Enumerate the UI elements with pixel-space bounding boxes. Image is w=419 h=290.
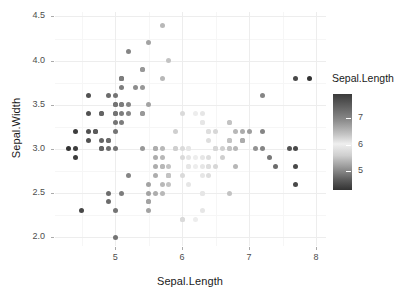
data-point: [140, 67, 145, 72]
legend-tick-mark: [346, 145, 351, 146]
data-point: [73, 155, 78, 160]
data-point: [173, 146, 178, 151]
y-axis-tick-mark: [51, 237, 54, 238]
data-point: [119, 120, 124, 125]
data-point: [206, 173, 211, 178]
x-axis-tick-mark: [182, 247, 183, 250]
data-point: [240, 138, 245, 143]
data-point: [113, 102, 118, 107]
data-point: [180, 217, 185, 222]
x-axis-title: Sepal.Length: [55, 275, 325, 287]
gridline-major-vertical: [316, 12, 317, 246]
y-axis-tick-label: 3.5: [19, 99, 45, 109]
data-point: [200, 155, 205, 160]
data-point: [213, 146, 218, 151]
data-point: [113, 129, 118, 134]
data-point: [146, 191, 151, 196]
data-point: [160, 191, 165, 196]
data-point: [273, 164, 278, 169]
data-point: [99, 146, 104, 151]
data-point: [180, 173, 185, 178]
legend-tick-label: 6: [358, 139, 363, 149]
data-point: [200, 164, 205, 169]
data-point: [126, 173, 131, 178]
data-point: [247, 129, 252, 134]
data-point: [113, 235, 118, 240]
gridline-minor-vertical: [283, 12, 284, 246]
data-point: [166, 182, 171, 187]
data-point: [119, 111, 124, 116]
data-point: [113, 120, 118, 125]
data-point: [166, 173, 171, 178]
data-point: [140, 85, 145, 90]
gridline-minor-horizontal: [55, 127, 326, 128]
data-point: [99, 138, 104, 143]
data-point: [200, 191, 205, 196]
data-point: [66, 146, 71, 151]
data-point: [206, 138, 211, 143]
y-axis-tick-label: 3.0: [19, 143, 45, 153]
data-point: [227, 120, 232, 125]
gridline-major-vertical: [182, 12, 183, 246]
data-point: [206, 129, 211, 134]
data-point: [146, 199, 151, 204]
legend-title: Sepal.Length: [332, 72, 394, 84]
data-point: [113, 146, 118, 151]
data-point: [233, 146, 238, 151]
legend-tick-label: 7: [358, 112, 363, 122]
data-point: [140, 146, 145, 151]
data-point: [160, 182, 165, 187]
y-axis-tick-label: 4.5: [19, 10, 45, 20]
data-point: [119, 76, 124, 81]
legend-colorbar: [333, 94, 352, 190]
data-point: [193, 155, 198, 160]
data-point: [220, 146, 225, 151]
y-axis-tick-label: 4.0: [19, 55, 45, 65]
gridline-major-horizontal: [55, 16, 326, 17]
data-point: [206, 155, 211, 160]
data-point: [180, 111, 185, 116]
data-point: [173, 129, 178, 134]
data-point: [106, 199, 111, 204]
data-point: [86, 129, 91, 134]
data-point: [293, 76, 298, 81]
data-point: [160, 23, 165, 28]
data-point: [160, 146, 165, 151]
data-point: [193, 217, 198, 222]
data-point: [86, 111, 91, 116]
y-axis-tick-mark: [51, 16, 54, 17]
x-axis-tick-label: 6: [170, 252, 194, 262]
y-axis-tick-label: 2.5: [19, 187, 45, 197]
data-point: [146, 182, 151, 187]
data-point: [106, 146, 111, 151]
data-point: [126, 49, 131, 54]
data-point: [180, 155, 185, 160]
data-point: [126, 102, 131, 107]
x-axis-tick-mark: [316, 247, 317, 250]
data-point: [166, 164, 171, 169]
data-point: [153, 164, 158, 169]
data-point: [73, 146, 78, 151]
data-point: [79, 208, 84, 213]
data-point: [160, 164, 165, 169]
data-point: [260, 93, 265, 98]
legend: Sepal.Length 765: [332, 72, 418, 197]
data-point: [153, 146, 158, 151]
data-point: [106, 138, 111, 143]
gridline-minor-horizontal: [55, 83, 326, 84]
data-point: [106, 191, 111, 196]
legend-tick-label: 5: [358, 165, 363, 175]
data-point: [166, 58, 171, 63]
data-point: [293, 164, 298, 169]
data-point: [126, 111, 131, 116]
y-axis-tick-label: 2.0: [19, 231, 45, 241]
data-point: [119, 191, 124, 196]
data-point: [146, 40, 151, 45]
data-point: [106, 93, 111, 98]
data-point: [160, 76, 165, 81]
data-point: [193, 111, 198, 116]
y-axis-tick-mark: [51, 105, 54, 106]
y-axis-tick-mark: [51, 149, 54, 150]
legend-tick-mark: [346, 171, 351, 172]
data-point: [227, 146, 232, 151]
